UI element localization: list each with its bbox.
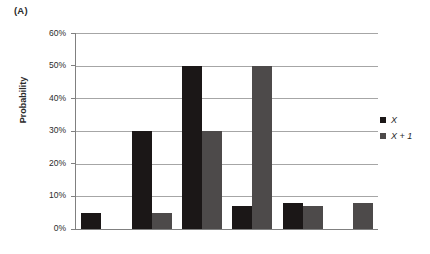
y-axis-title: Probability [18, 60, 28, 140]
legend-entry-x-plus-1: X + 1 [380, 128, 430, 144]
bar-X-cat-2 [132, 131, 152, 229]
y-tick-mark [71, 131, 75, 132]
y-tick-label: 50% [28, 61, 66, 70]
bar-X-plus-1-cat-6 [353, 203, 373, 229]
y-tick-label: 60% [28, 29, 66, 38]
y-tick-label: 30% [28, 126, 66, 135]
figure-panel-a: (A) Probability 60% 50% 40% 30% 20% 10% … [0, 0, 430, 254]
y-tick-label: 0% [28, 224, 66, 233]
y-tick-mark [71, 65, 75, 66]
x-axis-line [76, 229, 378, 230]
bar-X-cat-5 [283, 203, 303, 229]
bar-X-cat-3 [182, 66, 202, 229]
plot-area [76, 33, 378, 229]
gridline-30 [76, 131, 378, 132]
y-tick-mark [71, 33, 75, 34]
bar-X-plus-1-cat-2 [152, 213, 172, 229]
bar-X-cat-4 [232, 206, 252, 229]
y-tick-label: 40% [28, 94, 66, 103]
bar-X-cat-1 [81, 213, 101, 229]
legend-swatch-x-icon [380, 117, 386, 123]
legend-swatch-x-plus-1-icon [380, 133, 386, 139]
y-tick-mark [71, 98, 75, 99]
panel-label: (A) [14, 5, 28, 16]
y-tick-label: 20% [28, 159, 66, 168]
bar-X-plus-1-cat-5 [303, 206, 323, 229]
bar-X-plus-1-cat-4 [252, 66, 272, 229]
legend-label-x: X [391, 115, 397, 125]
legend-label-x-plus-1: X + 1 [391, 131, 412, 141]
gridline-10 [76, 196, 378, 197]
bar-X-plus-1-cat-3 [202, 131, 222, 229]
y-tick-mark [71, 196, 75, 197]
gridline-60 [76, 33, 378, 34]
gridline-40 [76, 98, 378, 99]
y-tick-mark [71, 163, 75, 164]
gridline-20 [76, 164, 378, 165]
legend-entry-x: X [380, 112, 430, 128]
y-tick-mark [71, 229, 75, 230]
legend: X X + 1 [380, 112, 430, 144]
gridline-50 [76, 66, 378, 67]
y-tick-label: 10% [28, 191, 66, 200]
